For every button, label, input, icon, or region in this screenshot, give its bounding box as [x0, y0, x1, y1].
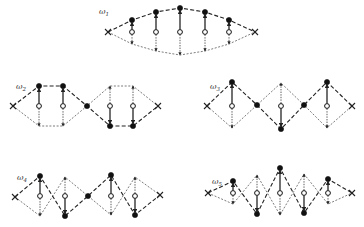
equilibrium-atom-circle [302, 191, 307, 196]
site [60, 83, 65, 126]
equilibrium-atom-circle [63, 194, 68, 199]
fixed-end-cross-icon [157, 192, 163, 198]
equilibrium-atom-circle [326, 191, 331, 196]
displaced-atom-dot [108, 172, 113, 177]
site [129, 17, 134, 44]
light-envelope-line [108, 32, 255, 55]
displaced-atom-dot [62, 213, 67, 218]
displaced-atom-dot [226, 17, 231, 22]
equilibrium-atom-circle [227, 30, 232, 35]
equilibrium-atom-circle [131, 104, 136, 109]
displaced-atom-dot [278, 126, 283, 131]
mode-4: ω4 [12, 172, 163, 218]
equilibrium-atom-circle [61, 104, 66, 109]
site [85, 193, 90, 198]
displaced-atom-dot [107, 123, 112, 128]
fixed-end-cross-icon [349, 103, 355, 109]
displaced-atom-dot [177, 5, 182, 10]
mode-1: ω1 [99, 5, 258, 55]
fixed-end-cross-icon [349, 190, 355, 196]
equilibrium-atom-circle [37, 104, 42, 109]
equilibrium-atom-circle [130, 30, 135, 35]
equilibrium-atom-circle [133, 194, 138, 199]
displaced-atom-dot [129, 17, 134, 22]
site [301, 102, 306, 107]
site [226, 17, 231, 44]
equilibrium-atom-circle [255, 191, 260, 196]
modes-group: ω1ω2ω3ω4ω5 [10, 5, 355, 218]
site [130, 86, 135, 129]
mode-label: ω3 [210, 82, 221, 92]
node-atom-dot [254, 102, 259, 107]
displaced-atom-dot [324, 79, 329, 84]
vibration-modes-diagram: ω1ω2ω3ω4ω5 [0, 0, 364, 227]
displaced-atom-dot [301, 210, 306, 215]
site [230, 178, 235, 204]
mode-label: ω2 [16, 82, 27, 92]
displaced-atom-dot [254, 211, 259, 216]
fixed-end-cross-icon [252, 29, 258, 35]
mode-2: ω2 [10, 82, 161, 129]
mode-label: ω4 [17, 173, 28, 183]
displaced-atom-dot [130, 123, 135, 128]
displaced-atom-dot [36, 83, 41, 88]
displaced-atom-dot [153, 9, 158, 14]
displaced-atom-dot [230, 178, 235, 183]
site [153, 9, 158, 51]
equilibrium-atom-circle [230, 104, 235, 109]
site [84, 103, 89, 108]
fixed-end-cross-icon [10, 103, 16, 109]
equilibrium-atom-circle [38, 194, 43, 199]
displaced-atom-dot [229, 79, 234, 84]
site [36, 83, 41, 126]
equilibrium-atom-circle [325, 104, 330, 109]
displaced-atom-dot [202, 9, 207, 14]
fixed-end-cross-icon [204, 103, 210, 109]
displaced-atom-dot [132, 212, 137, 217]
equilibrium-atom-circle [279, 104, 284, 109]
site [177, 5, 182, 55]
displaced-atom-dot [277, 165, 282, 170]
fixed-end-cross-icon [12, 194, 18, 200]
equilibrium-atom-circle [108, 104, 113, 109]
mode-5: ω5 [205, 165, 355, 216]
site [202, 9, 207, 51]
equilibrium-atom-circle [203, 30, 208, 35]
equilibrium-atom-circle [231, 191, 236, 196]
site [229, 79, 234, 128]
site [254, 102, 259, 107]
equilibrium-atom-circle [154, 30, 159, 35]
displaced-atom-dot [37, 173, 42, 178]
site [325, 176, 330, 204]
site [132, 177, 137, 218]
mode-3: ω3 [204, 79, 355, 131]
node-atom-dot [301, 102, 306, 107]
site [301, 174, 306, 216]
mode-label: ω1 [99, 7, 109, 17]
displaced-atom-dot [60, 83, 65, 88]
equilibrium-atom-circle [178, 30, 183, 35]
fixed-end-cross-icon [105, 29, 111, 35]
fixed-end-cross-icon [205, 190, 211, 196]
site [254, 175, 259, 217]
node-atom-dot [85, 193, 90, 198]
node-atom-dot [84, 103, 89, 108]
fixed-end-cross-icon [155, 103, 161, 109]
site [324, 79, 329, 128]
mode-label: ω5 [212, 177, 223, 187]
site [278, 83, 283, 132]
site [107, 86, 112, 129]
site [37, 173, 42, 216]
equilibrium-atom-circle [109, 194, 114, 199]
displaced-atom-dot [325, 176, 330, 181]
equilibrium-atom-circle [278, 191, 283, 196]
